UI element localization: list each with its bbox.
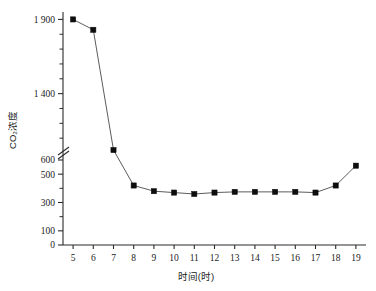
co2-concentration-line-chart: 01003005006001 4001 900 5678910111213141… [0,0,376,291]
chart-svg: 01003005006001 4001 900 5678910111213141… [0,0,376,291]
data-point-marker [293,189,298,194]
y-tick-label: 0 [50,240,55,250]
x-tick-label: 19 [351,253,361,263]
data-point-marker [313,190,318,195]
data-point-marker [252,189,257,194]
data-point-marker [111,147,116,152]
x-tick-label: 7 [111,253,116,263]
data-point-marker [91,27,96,32]
data-point-marker [192,191,197,196]
x-tick-label: 10 [169,253,179,263]
x-tick-label: 15 [270,253,280,263]
x-tick-label: 14 [250,253,260,263]
data-point-marker [151,189,156,194]
x-tick-label: 9 [152,253,157,263]
x-tick-label: 11 [190,253,199,263]
y-tick-label: 500 [41,170,56,180]
x-tick-label: 13 [230,253,240,263]
x-axis-title: 时间(时) [178,271,214,282]
x-tick-label: 17 [311,253,321,263]
series-markers-co2 [71,17,359,197]
y-tick-label: 100 [41,226,56,236]
y-tick-label: 1 400 [34,89,56,99]
x-tick-label: 12 [210,253,220,263]
x-tick-label: 5 [71,253,76,263]
data-point-marker [131,183,136,188]
y-tick-label: 600 [41,155,56,165]
series-line-co2 [73,19,356,194]
x-tick-label: 18 [331,253,341,263]
data-point-marker [71,17,76,22]
x-axis-ticks: 5678910111213141516171819 [71,245,361,263]
data-point-marker [232,189,237,194]
data-point-marker [172,190,177,195]
data-point-marker [353,163,358,168]
y-axis-ticks: 01003005006001 4001 900 [34,15,63,251]
data-point-marker [212,190,217,195]
data-point-marker [273,189,278,194]
y-tick-label: 300 [41,198,56,208]
x-tick-label: 16 [291,253,301,263]
y-tick-label: 1 900 [34,15,56,25]
y-axis-title: CO₂浓度 [7,111,18,149]
data-point-marker [333,183,338,188]
x-tick-label: 6 [91,253,96,263]
x-tick-label: 8 [131,253,136,263]
